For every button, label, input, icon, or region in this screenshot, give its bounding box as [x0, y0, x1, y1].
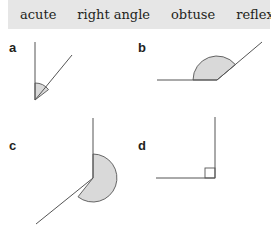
angle-b-obtuse: [157, 42, 262, 80]
angle-figures: [0, 0, 271, 229]
angle-c-reflex: [36, 118, 117, 224]
angle-d-right: [156, 117, 215, 178]
angle-a-acute: [35, 42, 72, 100]
